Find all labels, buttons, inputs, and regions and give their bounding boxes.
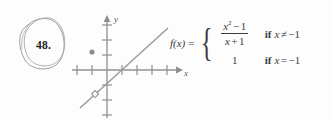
case-condition: ifx≠−1 xyxy=(265,28,300,40)
cases-list: x2−1 x+1 ifx≠−1 1 ifx=−1 xyxy=(218,20,301,66)
fraction: x2−1 x+1 xyxy=(221,20,248,47)
case-condition: ifx=−1 xyxy=(265,54,301,66)
case-value-scalar: 1 xyxy=(218,54,252,66)
textbook-figure-page: 48. xyxy=(0,0,331,119)
case-row: 1 ifx=−1 xyxy=(218,54,301,66)
x-axis xyxy=(72,67,183,74)
y-axis xyxy=(104,15,111,118)
problem-number-label: 48. xyxy=(36,39,51,51)
y-axis-label: y xyxy=(113,14,118,24)
case-row: x2−1 x+1 ifx≠−1 xyxy=(218,20,301,47)
fraction-denominator: x+1 xyxy=(223,35,247,47)
piecewise-function-formula: f(x) = { x2−1 x+1 ifx≠−1 1 ifx=−1 xyxy=(170,14,300,72)
filled-point-marker xyxy=(89,49,94,54)
y-axis-arrowhead xyxy=(104,15,111,22)
fraction-numerator: x2−1 xyxy=(221,20,248,32)
case-value-fraction: x2−1 x+1 xyxy=(218,20,252,47)
function-name-label: f(x) xyxy=(170,37,185,49)
equals-sign: = xyxy=(188,37,194,49)
